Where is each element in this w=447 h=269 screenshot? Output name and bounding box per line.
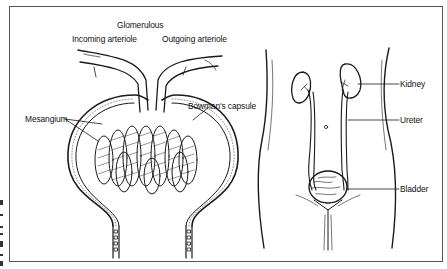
glomerulus-drawing (65, 50, 238, 258)
label-mesangium: Mesangium (25, 114, 67, 124)
label-glomerulous: Glomerulous (117, 20, 163, 30)
label-kidney: Kidney (400, 79, 425, 89)
label-ureter: Ureter (400, 115, 423, 125)
label-bowmans-capsule: Bowman's capsule (188, 101, 256, 111)
label-bladder: Bladder (400, 184, 428, 194)
urinary-system-drawing (258, 48, 399, 250)
label-incoming-arteriole: Incoming arteriole (72, 34, 137, 44)
label-outgoing-arteriole: Outgoing arteriole (162, 34, 227, 44)
